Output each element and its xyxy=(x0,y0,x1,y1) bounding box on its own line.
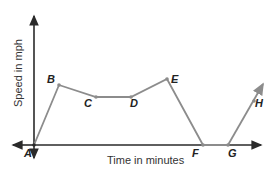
point-label-f: F xyxy=(192,148,199,159)
speed-line-ray xyxy=(228,84,263,145)
y-axis-title: Speed in mph xyxy=(13,39,24,107)
point-label-h: H xyxy=(255,98,263,109)
point-label-g: G xyxy=(228,148,237,159)
x-axis-title: Time in minutes xyxy=(107,155,184,166)
speed-line xyxy=(34,79,228,145)
point-label-c: C xyxy=(84,98,92,109)
speed-time-graph: A B C D E F G H Time in minutes Speed in… xyxy=(0,0,276,178)
point-label-b: B xyxy=(47,74,55,85)
point-label-a: A xyxy=(24,148,32,159)
point-label-d: D xyxy=(130,98,138,109)
point-label-e: E xyxy=(171,74,178,85)
